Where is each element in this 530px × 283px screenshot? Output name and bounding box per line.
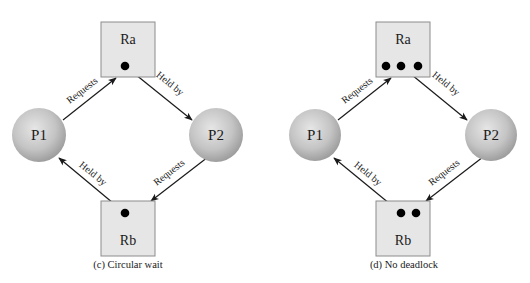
panel-circular-wait: RequestsHeld byRequestsHeld byRaRbP1P2(c…	[12, 22, 243, 271]
deadlock-diagrams: RequestsHeld byRequestsHeld byRaRbP1P2(c…	[0, 0, 530, 283]
resource-unit-dot	[121, 209, 130, 218]
process-p1: P1	[289, 109, 341, 161]
edge-label: Held by	[352, 159, 384, 188]
resource-unit-dot	[382, 62, 391, 71]
process-p2: P2	[189, 108, 243, 162]
process-label: P2	[208, 127, 224, 143]
edge-requests-p1-ra: Requests	[338, 75, 391, 120]
resource-label: Rb	[120, 233, 136, 248]
resource-label: Ra	[395, 32, 411, 47]
resource-rb: Rb	[376, 201, 430, 256]
resource-label: Rb	[395, 233, 411, 248]
resource-unit-dot	[412, 209, 421, 218]
panel-caption: (c) Circular wait	[93, 259, 162, 271]
edge-label: Requests	[426, 157, 461, 188]
diagram-canvas: RequestsHeld byRequestsHeld byRaRbP1P2(c…	[0, 0, 530, 283]
resource-ra: Ra	[376, 22, 430, 77]
resource-rb: Rb	[101, 201, 155, 256]
process-label: P1	[307, 127, 323, 143]
process-label: P1	[31, 127, 47, 143]
process-p2: P2	[465, 109, 517, 161]
edge-requests-p1-ra: Requests	[63, 75, 116, 120]
resource-unit-dot	[121, 62, 130, 71]
panel-no-deadlock: RequestsHeld byRequestsHeld byRaRbP1P2(d…	[289, 22, 517, 271]
edge-requests-p2-rb: Requests	[426, 157, 483, 201]
edge-label: Requests	[64, 75, 99, 106]
resource-unit-dot	[397, 209, 406, 218]
edge-label: Requests	[339, 75, 374, 106]
process-p1: P1	[12, 108, 66, 162]
resource-ra: Ra	[101, 22, 155, 77]
edge-label: Held by	[77, 159, 109, 188]
edge-label: Requests	[151, 157, 186, 188]
resource-label: Ra	[120, 32, 136, 47]
edge-requests-p2-rb: Requests	[151, 157, 208, 201]
resource-unit-dot	[414, 62, 423, 71]
process-label: P2	[483, 127, 499, 143]
resource-unit-dot	[397, 62, 406, 71]
panel-caption: (d) No deadlock	[370, 259, 439, 271]
